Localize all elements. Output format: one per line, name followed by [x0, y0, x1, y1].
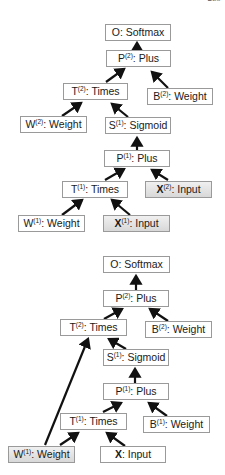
- node-t1-times-2: T(1): Times: [60, 413, 127, 430]
- node-o-softmax-2: O: Softmax: [103, 256, 170, 273]
- edges-bottom: [0, 0, 225, 475]
- node-t2-times-2: T(2): Times: [60, 319, 127, 336]
- node-w1-weight-2: W(1): Weight: [8, 446, 75, 463]
- node-p1-plus-2: P(1): Plus: [103, 383, 169, 400]
- diagram-bottom: O: Softmax P(2): Plus T(2): Times B(2): …: [0, 0, 225, 475]
- node-b2-weight-2: B(2): Weight: [145, 321, 212, 338]
- node-b1-weight-2: B(1): Weight: [143, 416, 210, 433]
- node-x-input-2: X: Input: [100, 446, 166, 463]
- node-s1-sigmoid-2: S(1): Sigmoid: [103, 349, 169, 366]
- node-p2-plus-2: P(2): Plus: [103, 290, 169, 307]
